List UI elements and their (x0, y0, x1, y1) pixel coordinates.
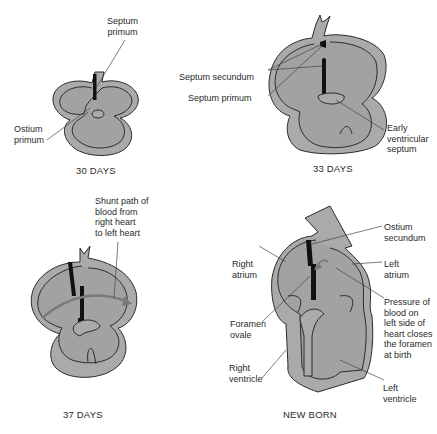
label-left-ventricle: Left ventricle (383, 383, 417, 404)
label-ostium-secundum: Ostium secundum (384, 222, 426, 243)
label-shunt-path: Shunt path of blood from right heart to … (95, 196, 149, 238)
label-right-ventricle: Right ventricle (229, 363, 263, 384)
heart-30-days (47, 40, 138, 156)
caption-37-days: 37 DAYS (63, 409, 103, 420)
caption-33-days: 33 DAYS (313, 163, 353, 174)
heart-33-days (268, 15, 387, 154)
label-septum-primum-30: Septum primum (107, 16, 138, 37)
label-left-atrium: Left atrium (384, 259, 409, 280)
heart-development-diagram (0, 0, 437, 434)
label-foramen-ovale: Foramen ovale (230, 319, 266, 340)
label-septum-primum-33: Septum primum (188, 93, 252, 104)
heart-newborn (259, 206, 384, 392)
heart-37-days (31, 242, 137, 377)
label-early-ventricular-septum: Early ventricular septum (387, 123, 429, 155)
label-ostium-primum: Ostium primum (14, 124, 44, 145)
label-pressure-note: Pressure of blood on left side of heart … (384, 297, 433, 360)
label-right-atrium: Right atrium (232, 259, 257, 280)
label-septum-secundum: Septum secundum (179, 72, 254, 83)
caption-new-born: NEW BORN (283, 409, 337, 420)
caption-30-days: 30 DAYS (76, 165, 116, 176)
